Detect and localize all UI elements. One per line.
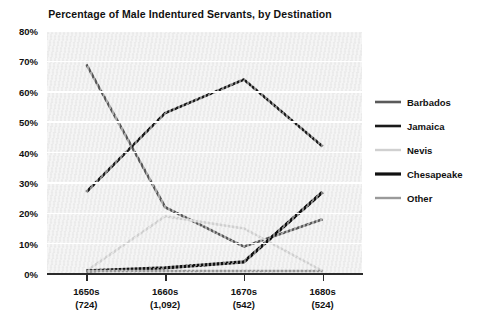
x-axis-sample-count: (724) xyxy=(73,298,99,311)
x-axis-decade: 1670s xyxy=(231,286,257,297)
legend-item-nevis[interactable]: Nevis xyxy=(375,138,475,162)
chart-container: Percentage of Male Indentured Servants, … xyxy=(0,0,477,329)
x-axis-sample-count: (542) xyxy=(231,298,257,311)
x-axis-decade: 1680s xyxy=(309,286,335,297)
x-axis-sample-count: (1,092) xyxy=(150,298,180,311)
x-axis-tick xyxy=(323,275,325,281)
legend-swatch-icon xyxy=(375,172,401,176)
x-axis-tick xyxy=(86,275,88,281)
x-axis-line xyxy=(47,273,363,275)
legend-label: Jamaica xyxy=(407,121,445,132)
y-axis-tick-label: 30% xyxy=(19,177,38,188)
legend-swatch-icon xyxy=(375,148,401,152)
gridline xyxy=(47,182,362,184)
gridline xyxy=(47,61,362,63)
x-axis-tick-label: 1660s(1,092) xyxy=(150,285,180,311)
x-axis-tick-label: 1650s(724) xyxy=(73,285,99,311)
legend-label: Barbados xyxy=(407,97,451,108)
x-axis-labels: 1650s(724)1660s(1,092)1670s(542)1680s(52… xyxy=(47,285,362,325)
gridline xyxy=(47,243,362,245)
y-axis-tick-label: 10% xyxy=(19,238,38,249)
legend-item-jamaica[interactable]: Jamaica xyxy=(375,114,475,138)
y-axis-tick-label: 40% xyxy=(19,147,38,158)
y-axis-tick-label: 20% xyxy=(19,208,38,219)
x-axis-tick xyxy=(244,275,246,281)
y-axis-tick-label: 0% xyxy=(24,269,38,280)
y-axis-tick-label: 80% xyxy=(19,26,38,37)
legend-label: Other xyxy=(407,193,432,204)
gridline xyxy=(47,31,362,32)
x-axis-decade: 1660s xyxy=(152,286,178,297)
y-axis-labels: 0%10%20%30%40%50%60%70%80% xyxy=(0,31,42,274)
gridline xyxy=(47,152,362,154)
x-axis-tick xyxy=(165,275,167,281)
gridline xyxy=(47,121,362,123)
legend-swatch-icon xyxy=(375,196,401,200)
legend-label: Nevis xyxy=(407,145,432,156)
y-axis-tick-label: 70% xyxy=(19,56,38,67)
chart-legend: BarbadosJamaicaNevisChesapeakeOther xyxy=(375,90,475,210)
x-axis-tick-label: 1670s(542) xyxy=(231,285,257,311)
plot-area xyxy=(47,31,362,274)
y-axis-tick-label: 60% xyxy=(19,86,38,97)
x-axis-sample-count: (524) xyxy=(309,298,335,311)
legend-item-other[interactable]: Other xyxy=(375,186,475,210)
gridline xyxy=(47,91,362,93)
x-axis-tick-label: 1680s(524) xyxy=(309,285,335,311)
legend-swatch-icon xyxy=(375,100,401,104)
legend-swatch-icon xyxy=(375,124,401,128)
x-axis-decade: 1650s xyxy=(73,286,99,297)
legend-item-chesapeake[interactable]: Chesapeake xyxy=(375,162,475,186)
legend-label: Chesapeake xyxy=(407,169,462,180)
gridline xyxy=(47,213,362,215)
legend-item-barbados[interactable]: Barbados xyxy=(375,90,475,114)
chart-title: Percentage of Male Indentured Servants, … xyxy=(0,8,380,20)
y-axis-tick-label: 50% xyxy=(19,117,38,128)
